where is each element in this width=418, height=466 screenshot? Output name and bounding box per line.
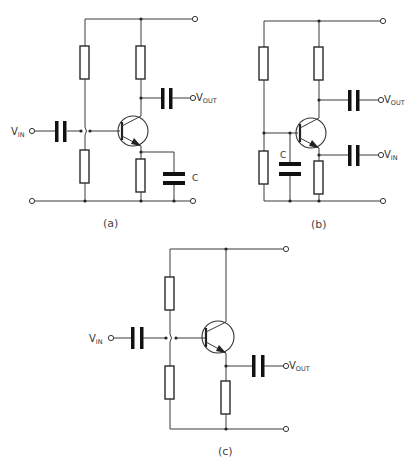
emitter-bypass-capacitor-a	[163, 172, 185, 176]
output-capacitor-b	[348, 90, 352, 111]
vout-terminal-b	[378, 97, 383, 102]
vin-label-c: VIN	[89, 333, 103, 346]
output-capacitor-a	[161, 88, 165, 109]
input-capacitor-b	[348, 145, 352, 166]
vin-terminal-c	[108, 335, 113, 340]
terminal-bottom-right-a	[190, 198, 195, 203]
caption-a: (a)	[103, 217, 118, 230]
terminal-bottom-left-a	[29, 198, 34, 203]
caption-c: (c)	[218, 445, 233, 458]
base-bypass-capacitor-b	[279, 162, 301, 166]
vin-label-b: VIN	[384, 149, 398, 162]
resistor-r1-a	[80, 46, 89, 79]
input-capacitor-c	[131, 327, 135, 349]
vin-terminal-b	[378, 152, 383, 157]
collector-resistor-a	[136, 46, 145, 79]
vout-terminal-c	[283, 363, 288, 368]
emitter-resistor-a	[136, 159, 145, 192]
resistor-r2-a	[80, 150, 89, 183]
terminal-top-right-b	[380, 18, 385, 23]
emitter-resistor-c	[221, 381, 230, 414]
terminal-top-right-a	[192, 16, 197, 21]
terminal-bottom-right-b	[380, 198, 385, 203]
terminal-bottom-right-c	[283, 426, 288, 431]
resistor-r1-c	[165, 277, 174, 310]
vout-label-b: VOUT	[384, 94, 405, 107]
circuit-b: C VOUT VIN (b)	[259, 18, 405, 231]
emitter-resistor-b	[314, 161, 323, 194]
vout-terminal-a	[190, 95, 195, 100]
vout-label-c: VOUT	[289, 360, 310, 373]
vin-label-a: VIN	[11, 126, 25, 139]
resistor-r2-b	[259, 151, 268, 184]
collector-resistor-b	[314, 47, 323, 80]
terminal-top-right-c	[283, 246, 288, 251]
resistor-r1-b	[259, 47, 268, 80]
vout-label-a: VOUT	[196, 92, 217, 105]
output-capacitor-c	[252, 355, 256, 377]
capacitor-c-label-b: C	[280, 150, 286, 160]
circuit-a: VIN VOUT C	[11, 16, 217, 230]
input-capacitor-a	[55, 121, 59, 142]
capacitor-c-label-a: C	[192, 173, 198, 183]
resistor-r2-c	[165, 366, 174, 399]
caption-b: (b)	[311, 218, 327, 231]
vin-terminal-a	[29, 128, 34, 133]
circuit-c: VIN VOUT (c)	[89, 246, 310, 458]
amplifier-circuits-diagram: VIN VOUT C	[0, 0, 418, 466]
